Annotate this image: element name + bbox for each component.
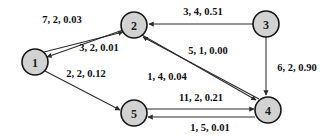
node-5[interactable]: 5 — [121, 100, 147, 126]
node-1-label: 1 — [32, 56, 38, 70]
edge-4-to-5-label: 1, 5, 0.01 — [190, 122, 229, 133]
edge-3-to-2-label: 3, 4, 0.51 — [183, 6, 222, 17]
node-4-label: 4 — [265, 104, 271, 118]
directed-graph-figure: 7, 2, 0.033, 2, 0.013, 4, 0.516, 2, 0.90… — [0, 0, 330, 136]
edge-1-to-2-label: 7, 2, 0.03 — [42, 14, 81, 25]
node-5-label: 5 — [131, 107, 137, 121]
edge-1-to-5-label: 2, 2, 0.12 — [66, 68, 105, 79]
edge-2-to-1-label: 3, 2, 0.01 — [79, 42, 118, 53]
edge-2-to-4-lower-label: 1, 4, 0.04 — [147, 71, 187, 82]
node-3-label: 3 — [263, 18, 269, 32]
node-3[interactable]: 3 — [253, 11, 279, 37]
edge-3-to-4-label: 6, 2, 0.90 — [277, 62, 316, 73]
graph-canvas: 7, 2, 0.033, 2, 0.013, 4, 0.516, 2, 0.90… — [0, 0, 330, 136]
node-2-label: 2 — [131, 19, 137, 33]
node-2[interactable]: 2 — [121, 12, 147, 38]
edge-5-to-4-label: 11, 2, 0.21 — [179, 92, 223, 103]
node-1[interactable]: 1 — [22, 49, 48, 75]
edge-4-to-2-upper-label: 5, 1, 0.00 — [188, 45, 227, 56]
node-4[interactable]: 4 — [255, 97, 281, 123]
